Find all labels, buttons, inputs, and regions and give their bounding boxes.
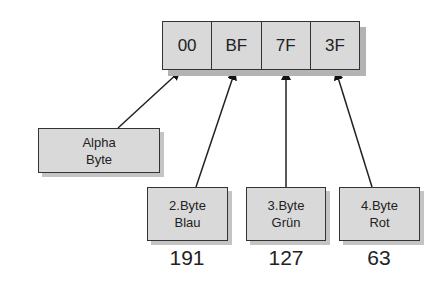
blue-box: 2.Byte Blau [147, 187, 228, 241]
red-value: 63 [339, 246, 419, 270]
byte-alpha: 00 [163, 22, 211, 69]
red-label-1: 4.Byte [361, 197, 398, 214]
arrow-alpha [118, 71, 180, 128]
red-label-2: Rot [369, 214, 389, 231]
blue-value: 191 [147, 246, 227, 270]
byte-green: 7F [261, 22, 310, 69]
blue-label-1: 2.Byte [169, 197, 206, 214]
green-label-1: 3.Byte [268, 197, 305, 214]
byte-row: 00 BF 7F 3F [162, 21, 360, 70]
byte-blue: BF [211, 22, 260, 69]
alpha-box: Alpha Byte [38, 128, 160, 173]
blue-label-2: Blau [174, 214, 200, 231]
red-box: 4.Byte Rot [339, 187, 420, 241]
alpha-label-2: Byte [86, 151, 112, 168]
green-label-2: Grün [272, 214, 301, 231]
green-box: 3.Byte Grün [246, 187, 326, 241]
alpha-label-1: Alpha [82, 134, 115, 151]
byte-red: 3F [310, 22, 359, 69]
green-value: 127 [246, 246, 326, 270]
arrow-rot [336, 71, 372, 187]
arrow-blau [196, 71, 235, 187]
